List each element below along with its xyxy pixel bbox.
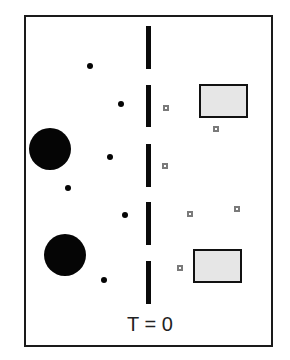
small-particle xyxy=(118,101,124,107)
barrier-segment xyxy=(146,85,151,127)
small-particle xyxy=(101,277,107,283)
target-rect xyxy=(193,249,242,283)
small-particle xyxy=(65,185,71,191)
simulation-diagram: T = 0 xyxy=(0,0,290,360)
large-particle xyxy=(44,234,86,276)
square-marker xyxy=(234,206,240,212)
small-particle xyxy=(122,212,128,218)
barrier-segment xyxy=(146,261,151,304)
small-particle xyxy=(87,63,93,69)
barrier-segment xyxy=(146,26,151,69)
barrier-segment xyxy=(146,202,151,245)
large-particle xyxy=(29,128,71,170)
time-label: T = 0 xyxy=(127,313,173,336)
square-marker xyxy=(162,163,168,169)
small-particle xyxy=(107,154,113,160)
target-rect xyxy=(199,84,248,118)
square-marker xyxy=(177,265,183,271)
square-marker xyxy=(213,126,219,132)
square-marker xyxy=(163,105,169,111)
barrier-segment xyxy=(146,144,151,187)
square-marker xyxy=(187,211,193,217)
